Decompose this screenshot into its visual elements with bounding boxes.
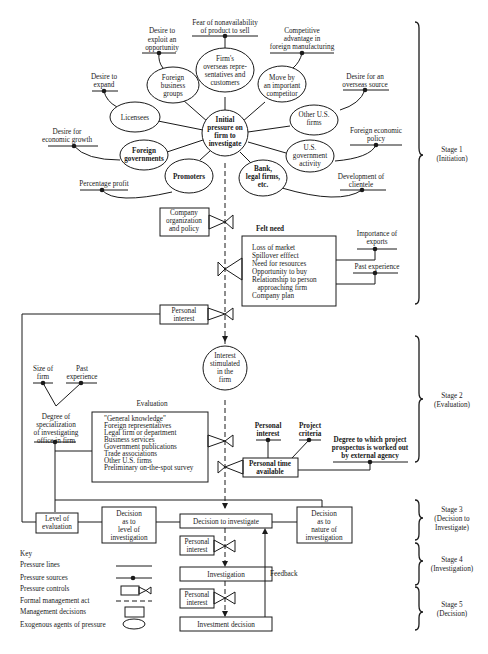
svg-text:Other U.S.: Other U.S. <box>299 111 330 119</box>
svg-text:Promoters: Promoters <box>173 173 205 181</box>
stage-brace-2: Stage 2 (Evaluation) <box>415 336 471 462</box>
stage-brace-1: Stage 1 (Initiation) <box>415 22 468 304</box>
pressure-source-competitive-advantage: Competitive advantage in foreign manufac… <box>270 27 335 68</box>
pressure-source-personal-interest: Personal interest <box>255 422 282 458</box>
svg-text:customers: customers <box>210 79 239 87</box>
investment-decision-box: Investment decision <box>180 617 272 631</box>
svg-text:Size of: Size of <box>33 365 54 373</box>
svg-text:sentatives and: sentatives and <box>205 71 246 79</box>
svg-text:(Decision to: (Decision to <box>434 515 470 523</box>
svg-text:investigation: investigation <box>110 534 148 542</box>
svg-text:Degree of: Degree of <box>42 413 71 421</box>
pressure-source-foreign-economic-policy: Foreign economic policy <box>335 127 402 161</box>
svg-text:Investment decision: Investment decision <box>197 621 255 629</box>
svg-text:governments: governments <box>124 155 164 163</box>
svg-text:Pressure lines: Pressure lines <box>20 561 60 569</box>
agent-us-government: U.S. government activity <box>286 140 334 172</box>
control-company-org: Company organization and policy <box>160 208 233 236</box>
pressure-source-external-agency: Degree to which project prospectus is wo… <box>298 436 409 470</box>
svg-text:interest: interest <box>256 430 280 438</box>
svg-text:interest: interest <box>173 315 194 323</box>
svg-text:Stage 4: Stage 4 <box>441 556 463 564</box>
svg-text:Fear of nonavailability: Fear of nonavailability <box>192 19 258 27</box>
investigation-box: Investigation <box>180 567 272 581</box>
svg-text:Relationship to person: Relationship to person <box>252 276 317 284</box>
svg-text:(Investigation): (Investigation) <box>431 565 474 573</box>
svg-text:Personal: Personal <box>185 538 210 546</box>
agent-foreign-governments: Foreign governments <box>120 140 168 170</box>
svg-text:opportunity: opportunity <box>145 44 179 52</box>
pressure-source-size-of-firm: Size of firm <box>33 365 54 385</box>
svg-text:Company: Company <box>170 209 198 217</box>
control-personal-interest-3: Personal interest <box>180 581 235 617</box>
svg-text:clientele: clientele <box>349 181 373 189</box>
svg-text:Firm's: Firm's <box>216 55 234 63</box>
agent-overseas-reps: Firm's overseas repre- sentatives and cu… <box>196 48 254 92</box>
svg-text:experience: experience <box>66 373 97 381</box>
svg-text:specialization: specialization <box>36 421 76 429</box>
svg-text:interest: interest <box>186 599 207 607</box>
svg-text:Past experience: Past experience <box>355 263 400 271</box>
svg-text:Foreign economic: Foreign economic <box>350 127 402 135</box>
svg-text:Degree to which project: Degree to which project <box>334 436 408 444</box>
svg-text:as to: as to <box>317 518 331 526</box>
svg-text:Personal time: Personal time <box>249 460 291 468</box>
svg-text:in the: in the <box>217 368 233 376</box>
svg-text:Feedback: Feedback <box>270 570 298 578</box>
svg-text:Investigation: Investigation <box>207 571 245 579</box>
svg-text:Past: Past <box>76 365 88 373</box>
svg-text:Evaluation: Evaluation <box>136 400 168 408</box>
svg-text:firm to: firm to <box>214 132 236 140</box>
svg-text:Decision to investigate: Decision to investigate <box>193 518 259 526</box>
stage-brace-5: Stage 5 (Decision) <box>415 587 468 630</box>
svg-text:Investigate): Investigate) <box>435 524 470 532</box>
svg-text:Desire to: Desire to <box>91 73 118 81</box>
svg-text:Bank,: Bank, <box>254 165 272 173</box>
svg-text:Pressure controls: Pressure controls <box>20 585 70 593</box>
svg-text:organization: organization <box>166 217 202 225</box>
agent-bank-legal: Bank, legal firms, etc. <box>239 160 287 196</box>
felt-need-box: Felt need Loss of market Spillover efffe… <box>218 225 336 306</box>
svg-text:Percentage profit: Percentage profit <box>79 180 128 188</box>
svg-text:Desire for: Desire for <box>53 128 83 136</box>
svg-text:Spillover efffect: Spillover efffect <box>252 252 299 260</box>
decision-nature-of-investigation: Decision as to nature of investigation <box>297 507 352 543</box>
svg-text:as to: as to <box>122 518 136 526</box>
svg-text:approaching firm: approaching firm <box>252 284 307 292</box>
svg-text:interest: interest <box>186 546 207 554</box>
svg-text:foreign manufacturing: foreign manufacturing <box>270 43 335 51</box>
svg-text:Initial: Initial <box>216 116 235 124</box>
svg-text:firm: firm <box>37 373 50 381</box>
svg-text:legal firms,: legal firms, <box>246 173 281 181</box>
svg-text:Personal: Personal <box>255 422 282 430</box>
svg-text:Stage 2: Stage 2 <box>441 392 463 400</box>
decision-level-of-evaluation: Level of evaluation <box>36 513 102 533</box>
pressure-source-percentage-profit: Percentage profit <box>79 180 172 198</box>
svg-text:activity: activity <box>299 160 321 168</box>
svg-text:government: government <box>293 152 327 160</box>
control-personal-time: Personal time available <box>218 458 298 477</box>
svg-text:Personal: Personal <box>172 307 197 315</box>
svg-text:Opportunity to buy: Opportunity to buy <box>252 268 308 276</box>
decision-level-of-investigation: Decision as to level of investigation <box>102 507 180 543</box>
svg-text:firms: firms <box>306 119 321 127</box>
svg-text:criteria: criteria <box>299 430 322 438</box>
svg-text:an important: an important <box>264 82 301 90</box>
svg-text:investigation: investigation <box>305 534 343 542</box>
svg-text:Stage 1: Stage 1 <box>441 146 463 154</box>
svg-text:(Decision): (Decision) <box>437 610 468 618</box>
svg-text:available: available <box>256 468 284 476</box>
agent-promoters: Promoters <box>165 159 213 193</box>
svg-text:Licensees: Licensees <box>121 114 150 122</box>
svg-text:expand: expand <box>94 81 115 89</box>
svg-text:Stage 3: Stage 3 <box>441 506 463 514</box>
svg-text:Need for resources: Need for resources <box>252 260 306 268</box>
svg-text:Project: Project <box>299 422 322 430</box>
pressure-source-exploit-opportunity: Desire to exploit an opportunity <box>142 27 179 68</box>
svg-text:Preliminary on-the-spot survey: Preliminary on-the-spot survey <box>104 464 194 472</box>
svg-text:investigate: investigate <box>209 140 242 148</box>
svg-text:nature of: nature of <box>311 526 337 534</box>
control-personal-interest-2: Personal interest <box>180 528 235 567</box>
svg-text:groups: groups <box>163 90 183 98</box>
legend: Key Pressure lines Pressure sources Pres… <box>20 550 152 629</box>
